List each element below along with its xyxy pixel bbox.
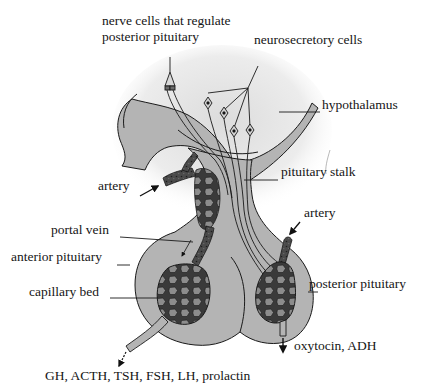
posterior-outflow-vein bbox=[280, 320, 286, 336]
label-hypothalamus: hypothalamus bbox=[322, 97, 398, 113]
anterior-output-arrow bbox=[119, 352, 126, 366]
label-nerve-cells-line1: nerve cells that regulate bbox=[102, 13, 272, 29]
label-anterior-hormones: GH, ACTH, TSH, FSH, LH, prolactin bbox=[45, 368, 250, 384]
label-portal-vein: portal vein bbox=[51, 222, 109, 238]
label-anterior-pituitary: anterior pituitary bbox=[11, 249, 102, 265]
label-nerve-cells-line2: posterior pituitary bbox=[102, 29, 272, 45]
right-artery-arrow bbox=[290, 222, 300, 234]
pituitary-diagram bbox=[0, 0, 425, 391]
label-artery-right: artery bbox=[304, 205, 335, 221]
label-neurosecretory-cells: neurosecretory cells bbox=[254, 32, 362, 48]
label-oxytocin-adh: oxytocin, ADH bbox=[294, 338, 377, 354]
anterior-capillary-bed bbox=[157, 264, 210, 324]
label-pituitary-stalk: pituitary stalk bbox=[281, 164, 356, 180]
label-capillary-bed: capillary bed bbox=[29, 284, 99, 300]
label-nerve-cells: nerve cells that regulate posterior pitu… bbox=[102, 13, 272, 45]
label-posterior-pituitary: posterior pituitary bbox=[309, 276, 406, 292]
label-artery-left: artery bbox=[98, 178, 129, 194]
